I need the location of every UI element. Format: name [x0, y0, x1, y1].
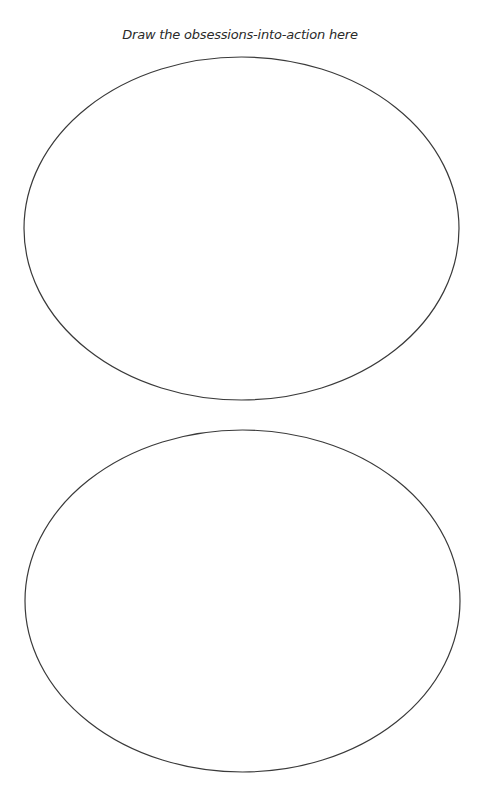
drawing-area-top[interactable] [24, 57, 459, 400]
drawing-area-bottom[interactable] [25, 430, 460, 772]
drawing-canvas [0, 0, 489, 812]
worksheet-page: Draw the obsessions-into-action here [0, 0, 489, 812]
